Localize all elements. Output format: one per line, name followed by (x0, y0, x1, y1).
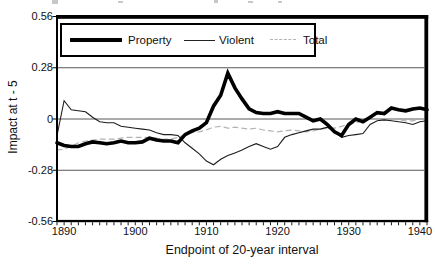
legend-label-property: Property (128, 33, 171, 48)
frame-right (424, 15, 428, 222)
legend-box: Property Violent Total (60, 23, 316, 57)
legend-swatch-total-line (270, 39, 296, 40)
x-tick-label: 1940 (408, 225, 432, 237)
legend-label-total: Total (303, 33, 327, 48)
x-tick-label: 1910 (194, 225, 218, 237)
x-axis-title: Endpoint of 20-year interval (166, 243, 319, 257)
y-tick-label: -0.28 (0, 164, 53, 177)
x-tick-label: 1900 (123, 225, 147, 237)
x-tick-label: 1890 (52, 225, 76, 237)
frame-top (56, 15, 428, 19)
legend-swatch-violent-line (184, 40, 215, 42)
y-tick-label: -0.56 (0, 215, 53, 228)
x-tick-label: 1930 (336, 225, 360, 237)
series-line-violent (57, 101, 427, 165)
y-tick-label: 0.56 (0, 10, 53, 23)
y-axis-line (56, 15, 58, 222)
x-axis-line (56, 220, 428, 222)
x-tick-label: 1920 (265, 225, 289, 237)
y-tick-label: 0.28 (0, 61, 53, 74)
y-axis-title: Impact at t - 5 (6, 80, 20, 153)
series-line-property (57, 73, 427, 146)
crime-impact-figure: 0.560.280-0.28-0.56 18901900191019201930… (0, 0, 435, 266)
legend-swatch-property-line (70, 38, 122, 42)
legend-label-violent: Violent (219, 33, 254, 48)
